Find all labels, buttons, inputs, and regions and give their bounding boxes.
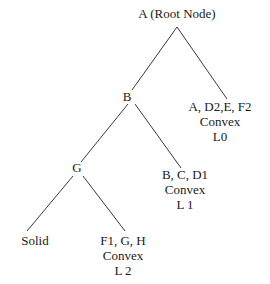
- edge-root-to-l0: [177, 27, 227, 99]
- leaf-l1-level: L 1: [145, 197, 225, 212]
- edge-g-to-solid: [27, 176, 73, 231]
- leaf-l1: B, C, D1 Convex L 1: [145, 167, 225, 212]
- leaf-l2-level: L 2: [88, 263, 158, 278]
- edge-b-to-g: [81, 104, 128, 162]
- leaf-l0-faces: A, D2,E, F2: [170, 99, 270, 114]
- edge-g-to-l2: [83, 176, 125, 231]
- edge-root-to-b: [132, 27, 177, 90]
- node-b: B: [117, 89, 137, 104]
- leaf-l1-type: Convex: [145, 182, 225, 197]
- leaf-l0: A, D2,E, F2 Convex L0: [170, 99, 270, 144]
- leaf-l0-level: L0: [170, 129, 270, 144]
- root-node: A (Root Node): [127, 6, 227, 21]
- leaf-l2-faces: F1, G, H: [88, 233, 158, 248]
- leaf-l0-type: Convex: [170, 114, 270, 129]
- leaf-solid: Solid: [10, 233, 60, 248]
- leaf-l1-faces: B, C, D1: [145, 167, 225, 182]
- leaf-l2-type: Convex: [88, 248, 158, 263]
- leaf-l2: F1, G, H Convex L 2: [88, 233, 158, 278]
- node-g: G: [67, 160, 87, 175]
